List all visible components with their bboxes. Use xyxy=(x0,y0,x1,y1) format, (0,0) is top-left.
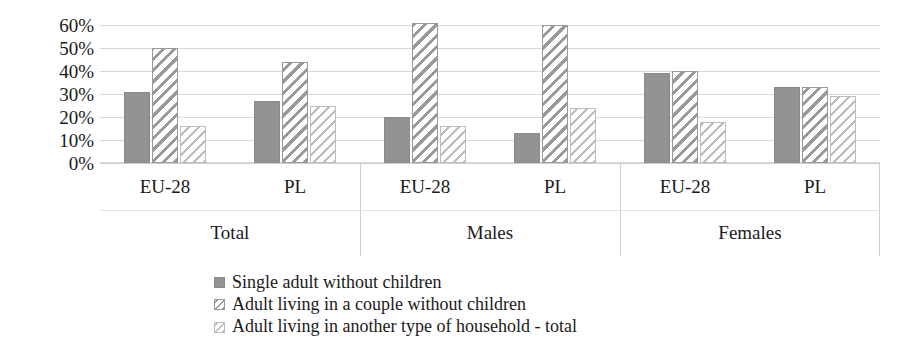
region-label: EU-28 xyxy=(620,164,750,210)
legend-item[interactable]: Adult living in a couple without childre… xyxy=(214,294,684,315)
category-axis: EU-28PLTotalEU-28PLMalesEU-28PLFemales xyxy=(100,163,880,256)
bar-cluster xyxy=(620,25,750,163)
region-label: PL xyxy=(490,164,620,210)
region-label-row: EU-28PL xyxy=(620,164,880,211)
bar[interactable] xyxy=(570,108,596,163)
bar[interactable] xyxy=(254,101,280,163)
region-label: EU-28 xyxy=(360,164,490,210)
y-axis-tick-label: 40% xyxy=(59,62,94,81)
bar-cluster xyxy=(230,25,360,163)
region-label-row: EU-28PL xyxy=(100,164,360,211)
bar[interactable] xyxy=(802,87,828,163)
y-axis-tick-label: 60% xyxy=(59,16,94,35)
bar[interactable] xyxy=(774,87,800,163)
bar[interactable] xyxy=(412,23,438,163)
bar[interactable] xyxy=(830,96,856,163)
bar-cluster xyxy=(100,25,230,163)
bar[interactable] xyxy=(542,25,568,163)
bar-cluster xyxy=(490,25,620,163)
bar[interactable] xyxy=(282,62,308,163)
bar-group-males xyxy=(360,25,620,163)
bar[interactable] xyxy=(440,126,466,163)
category-group-males: EU-28PLMales xyxy=(360,164,620,256)
legend-swatch-icon xyxy=(214,299,225,310)
bar[interactable] xyxy=(310,106,336,164)
y-axis-tick-label: 20% xyxy=(59,108,94,127)
legend-label: Adult living in a couple without childre… xyxy=(232,294,526,315)
bar[interactable] xyxy=(124,92,150,163)
bar-cluster xyxy=(750,25,880,163)
bar[interactable] xyxy=(644,73,670,163)
legend-item[interactable]: Single adult without children xyxy=(214,272,684,293)
y-axis-tick-label: 30% xyxy=(59,85,94,104)
bar-group-females xyxy=(620,25,880,163)
y-axis-tick-label: 50% xyxy=(59,39,94,58)
group-label: Females xyxy=(620,210,880,256)
region-label: EU-28 xyxy=(100,164,230,210)
y-axis-tick-label: 0% xyxy=(69,154,94,173)
region-label-row: EU-28PL xyxy=(360,164,620,211)
legend-swatch-icon xyxy=(214,322,225,333)
bar[interactable] xyxy=(180,126,206,163)
bar-groups xyxy=(100,25,880,163)
legend-label: Single adult without children xyxy=(232,272,441,293)
bar-cluster xyxy=(360,25,490,163)
plot-area xyxy=(100,25,880,163)
y-axis-tick-label: 10% xyxy=(59,131,94,150)
region-label: PL xyxy=(750,164,880,210)
bar[interactable] xyxy=(672,71,698,163)
region-label: PL xyxy=(230,164,360,210)
legend-label: Adult living in another type of househol… xyxy=(232,316,577,337)
category-group-total: EU-28PLTotal xyxy=(100,164,360,256)
group-label: Males xyxy=(360,210,620,256)
group-label: Total xyxy=(100,210,360,256)
y-axis: 0%10%20%30%40%50%60% xyxy=(28,25,94,163)
bar[interactable] xyxy=(514,133,540,163)
bar-group-total xyxy=(100,25,360,163)
bar-chart: 0%10%20%30%40%50%60% EU-28PLTotalEU-28PL… xyxy=(0,0,898,352)
bar[interactable] xyxy=(384,117,410,163)
bar[interactable] xyxy=(700,122,726,163)
category-group-females: EU-28PLFemales xyxy=(620,164,880,256)
legend-swatch-icon xyxy=(214,277,225,288)
legend-item[interactable]: Adult living in another type of househol… xyxy=(214,316,684,337)
bar[interactable] xyxy=(152,48,178,163)
chart-legend: Single adult without childrenAdult livin… xyxy=(0,272,898,338)
